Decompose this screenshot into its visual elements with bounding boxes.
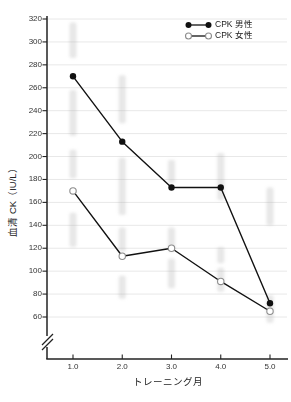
x-tick-label-5: 5.0 [255,362,285,372]
y-tick-label-320: 320 [13,14,42,24]
legend-marker-open-circle-icon [186,33,192,39]
y-tick-label-100: 100 [13,266,42,276]
y-tick-label-80: 80 [13,289,42,299]
data-point-female-m3 [168,245,174,251]
legend-label-0: CPK 男性 [215,19,253,30]
x-tick-label-2: 2.0 [107,362,137,372]
x-tick-label-1: 1.0 [58,362,88,372]
y-tick-label-240: 240 [13,106,42,116]
y-tick-label-260: 260 [13,83,42,93]
x-tick-label-3: 3.0 [157,362,187,372]
ghost-mark-3 [70,213,77,247]
data-point-female-m1 [70,188,76,194]
data-point-female-m4 [218,278,224,284]
data-point-female-m5 [267,308,273,314]
y-tick-label-60: 60 [13,312,42,322]
data-point-male-m2 [119,138,125,144]
data-point-male-m5 [267,300,273,306]
data-point-female-m2 [119,253,125,259]
ghost-mark-1 [70,90,77,136]
y-tick-label-220: 220 [13,129,42,139]
legend-marker-filled-circle-icon [186,22,192,28]
ghost-mark-4 [119,75,126,123]
y-tick-label-280: 280 [13,60,42,70]
y-tick-label-180: 180 [13,174,42,184]
ghost-mark-10 [168,259,175,289]
ghost-mark-0 [70,22,77,58]
ghost-mark-7 [119,276,126,299]
ghost-mark-6 [119,228,126,252]
data-point-male-m3 [168,184,174,190]
y-tick-label-160: 160 [13,197,42,207]
legend-marker-filled-circle-icon [206,22,212,28]
x-axis-title: トレーニング月 [47,374,288,388]
gridlines [48,19,287,317]
y-tick-label-120: 120 [13,243,42,253]
data-point-male-m4 [218,184,224,190]
ghost-mark-8 [168,160,175,183]
legend-label-1: CPK 女性 [215,30,253,41]
legend-marker-open-circle-icon [206,33,212,39]
series-cpk-female [70,188,273,315]
ghost-mark-12 [217,247,224,263]
legend [186,22,212,39]
ghost-mark-5 [119,158,126,215]
y-tick-label-300: 300 [13,37,42,47]
x-tick-label-4: 4.0 [206,362,236,372]
chart-canvas [0,0,291,402]
ghost-mark-14 [267,187,274,225]
ghost-artifacts [70,22,274,322]
y-tick-label-200: 200 [13,152,42,162]
ghost-mark-2 [70,150,77,179]
y-tick-label-140: 140 [13,220,42,230]
axes [42,16,288,359]
data-point-male-m1 [70,73,76,79]
ck-line-chart: 血清 CK（IU/L） トレーニング月 60801001201401601802… [0,0,291,402]
